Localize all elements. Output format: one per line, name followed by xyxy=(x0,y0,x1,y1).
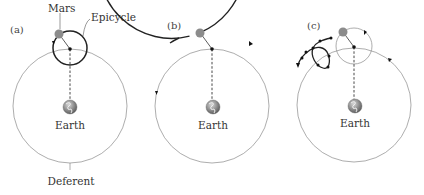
panel-a: (a) Mars Epicycle Earth Deferent xyxy=(10,2,136,187)
direction-arrow-icon xyxy=(249,41,253,46)
earth-icon xyxy=(63,100,77,114)
direction-arrow-icon xyxy=(296,63,300,68)
mars-label: Mars xyxy=(48,2,75,14)
panel-label-b: (b) xyxy=(167,20,181,31)
deferent-label: Deferent xyxy=(48,175,96,187)
epicycle-center-dot xyxy=(68,47,72,51)
earth-label: Earth xyxy=(198,119,228,131)
epicycle-pointer xyxy=(83,19,90,36)
epicycle-center-dot xyxy=(210,47,214,51)
earth-icon xyxy=(206,100,220,114)
epicycle-diagram: (a) Mars Epicycle Earth Deferent (b) Ear… xyxy=(0,0,424,195)
direction-arrow-icon xyxy=(155,91,158,95)
direction-arrow-icon xyxy=(52,41,55,45)
panel-label-c: (c) xyxy=(307,20,321,31)
direction-arrow-icon xyxy=(388,58,392,62)
direction-arrow-icon xyxy=(364,30,367,35)
earth-label: Earth xyxy=(340,117,370,129)
panel-label-a: (a) xyxy=(10,24,24,35)
mars-planet xyxy=(339,28,348,37)
epicycle-label: Epicycle xyxy=(91,11,136,23)
panel-c: (c) Earth xyxy=(296,20,411,162)
panel-b: (b) Earth xyxy=(89,0,269,163)
earth-icon xyxy=(348,99,362,113)
mars-planet xyxy=(196,29,205,38)
earth-label: Earth xyxy=(55,119,85,131)
mars-planet xyxy=(55,30,64,39)
epicycle-center-dot xyxy=(352,45,356,49)
